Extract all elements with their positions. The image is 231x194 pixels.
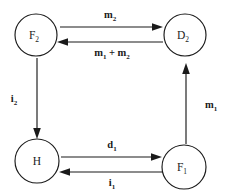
edge-label-f1-to-h: i1 [109,177,116,190]
arrowhead-left-f1-to-h [59,168,70,176]
node-d2: D2 [164,14,206,56]
diagram-svg: F2 D2 H F1 m2 m1 + m2 [0,0,231,194]
node-label-h: H [33,155,41,167]
arrowhead-down-f2-to-h [33,128,41,139]
edge-f1-to-h: i1 [59,168,162,190]
arrowhead-right-h-to-f1 [151,153,162,161]
edge-h-to-f1: d1 [61,139,162,160]
node-label-f2: F2 [29,29,39,44]
node-label-f1: F1 [177,161,187,176]
edge-d2-to-f2: m1 + m2 [57,38,163,60]
edge-f2-to-h: i2 [11,58,41,139]
node-f2: F2 [15,14,57,56]
node-h: H [15,139,59,183]
edge-label-f2-to-d2: m2 [104,9,117,22]
arrowhead-left-d2-to-f2 [57,38,68,46]
diagram-canvas: F2 D2 H F1 m2 m1 + m2 [0,0,231,194]
edge-label-f1-to-d2: m1 [205,99,218,112]
arrowhead-right-f2-to-d2 [152,23,163,31]
node-f1: F1 [162,145,206,189]
node-label-d2: D2 [177,29,189,44]
edge-label-f2-to-h: i2 [11,93,18,106]
edge-f2-to-d2: m2 [60,9,163,30]
edge-label-h-to-f1: d1 [107,139,117,152]
arrowhead-up-f1-to-d2 [182,63,190,74]
edge-label-d2-to-f2: m1 + m2 [94,47,130,60]
edge-f1-to-d2: m1 [182,63,217,144]
